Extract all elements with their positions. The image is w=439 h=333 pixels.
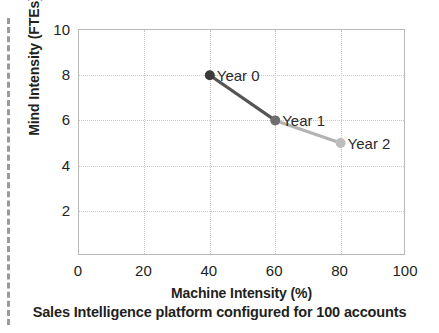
plot-area: Year 0Year 1Year 2 — [78, 29, 405, 255]
x-tick-label: 0 — [74, 263, 82, 278]
data-point-label: Year 2 — [348, 136, 391, 151]
data-point-marker — [205, 70, 215, 80]
x-tick-label: 80 — [331, 263, 348, 278]
y-tick-label: 10 — [44, 22, 70, 37]
y-tick-label: 4 — [44, 157, 70, 172]
x-tick-label: 60 — [266, 263, 283, 278]
x-tick-label: 40 — [200, 263, 217, 278]
y-tick-label: 8 — [44, 67, 70, 82]
x-tick-label: 100 — [392, 263, 417, 278]
y-tick-label: 6 — [44, 112, 70, 127]
chart-figure: Mind Intensity (FTEs) 246810 Year 0Year … — [0, 0, 439, 333]
y-axis-title-wrapper: Mind Intensity (FTEs) — [24, 0, 44, 166]
data-point-marker — [336, 138, 346, 148]
figure-caption: Sales Intelligence platform configured f… — [0, 305, 439, 321]
data-point-label: Year 1 — [282, 113, 325, 128]
x-tick-label: 20 — [135, 263, 152, 278]
data-point-label: Year 0 — [217, 68, 260, 83]
y-axis-title: Mind Intensity (FTEs) — [27, 0, 41, 136]
data-point-marker — [270, 115, 280, 125]
y-tick-label: 2 — [44, 202, 70, 217]
x-axis-title: Machine Intensity (%) — [78, 286, 405, 300]
